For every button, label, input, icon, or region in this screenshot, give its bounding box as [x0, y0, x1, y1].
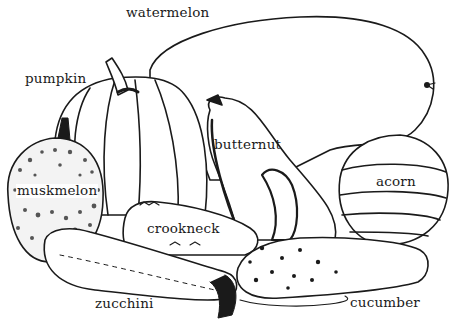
- drawing: [0, 0, 452, 323]
- label-butternut: butternut: [214, 138, 281, 152]
- label-watermelon: watermelon: [126, 6, 209, 20]
- label-acorn: acorn: [376, 175, 416, 189]
- label-zucchini: zucchini: [95, 297, 154, 311]
- label-crookneck: crookneck: [147, 222, 220, 236]
- vegetable-illustration: watermelon pumpkin butternut acorn muskm…: [0, 0, 452, 323]
- acorn-shape: [339, 135, 448, 245]
- label-pumpkin: pumpkin: [25, 72, 86, 86]
- label-cucumber: cucumber: [350, 296, 420, 310]
- label-muskmelon: muskmelon: [16, 184, 98, 198]
